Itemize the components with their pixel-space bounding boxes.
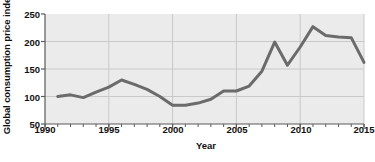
chart-figure: Global consumption price index 250 200 1… bbox=[0, 0, 372, 162]
plot-area bbox=[0, 0, 372, 162]
